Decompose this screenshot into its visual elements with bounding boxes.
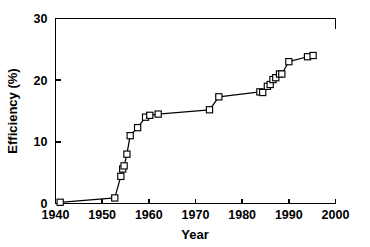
data-point-marker bbox=[124, 151, 130, 157]
x-axis-title: Year bbox=[181, 227, 208, 242]
data-point-marker bbox=[206, 107, 212, 113]
data-point-marker bbox=[260, 89, 266, 95]
data-point-marker bbox=[310, 52, 316, 58]
y-tick-label: 10 bbox=[34, 135, 48, 149]
y-axis-tick-labels: 0102030 bbox=[34, 12, 48, 211]
data-point-marker bbox=[279, 71, 285, 77]
data-point-marker bbox=[118, 173, 124, 179]
data-point-marker bbox=[121, 163, 127, 169]
data-point-markers bbox=[57, 52, 316, 205]
x-tick-label: 1960 bbox=[135, 208, 163, 222]
x-axis-tick-labels: 1940195019601970198019902000 bbox=[42, 208, 350, 222]
x-tick-label: 1980 bbox=[228, 208, 256, 222]
data-point-marker bbox=[286, 59, 292, 65]
x-tick-label: 1950 bbox=[88, 208, 116, 222]
data-point-marker bbox=[57, 199, 63, 205]
y-tick-label: 30 bbox=[34, 12, 48, 26]
data-point-marker bbox=[216, 94, 222, 100]
x-tick-label: 1940 bbox=[42, 208, 70, 222]
x-tick-label: 1990 bbox=[275, 208, 303, 222]
y-axis-title: Efficiency (%) bbox=[5, 68, 20, 153]
series-group bbox=[57, 52, 316, 205]
y-tick-label: 20 bbox=[34, 74, 48, 88]
x-tick-label: 1970 bbox=[182, 208, 210, 222]
data-point-marker bbox=[135, 125, 141, 131]
data-point-marker bbox=[147, 112, 153, 118]
data-point-marker bbox=[127, 133, 133, 139]
y-axis-ticks bbox=[56, 19, 61, 204]
x-tick-label: 2000 bbox=[322, 208, 350, 222]
data-point-marker bbox=[112, 195, 118, 201]
chart-canvas: 0102030 1940195019601970198019902000 Yea… bbox=[0, 0, 370, 247]
data-point-marker bbox=[155, 111, 161, 117]
efficiency-vs-year-chart: 0102030 1940195019601970198019902000 Yea… bbox=[0, 0, 370, 247]
